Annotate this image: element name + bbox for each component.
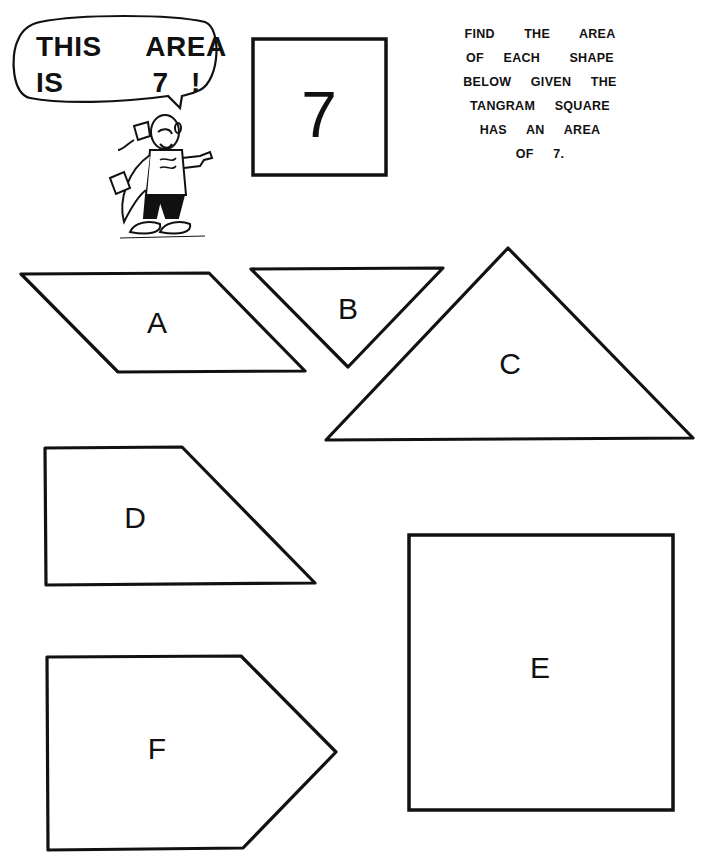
shape-d-label: D (124, 501, 146, 534)
shape-b-label: B (338, 292, 358, 325)
shape-a-label: A (147, 306, 167, 339)
shape-c-triangle (326, 248, 693, 440)
speech-bubble-line: THIS AREA (36, 29, 227, 65)
shape-c-label: C (499, 347, 521, 380)
shape-f-label: F (148, 732, 166, 765)
tangram-square-label: 7 (301, 79, 337, 151)
instruction-line: FIND THE AREA (440, 22, 640, 46)
instructions: FIND THE AREA OF EACH SHAPE BELOW GIVEN … (440, 22, 640, 166)
speech-bubble-text: THIS AREA IS 7 ! (36, 29, 227, 101)
instruction-line: BELOW GIVEN THE (440, 70, 640, 94)
instruction-line: TANGRAM SQUARE (440, 94, 640, 118)
instruction-line: OF EACH SHAPE (440, 46, 640, 70)
shape-e-label: E (530, 651, 550, 684)
instruction-line: OF 7. (440, 142, 640, 166)
shape-d-trapezoid (45, 447, 315, 585)
speech-bubble-line: IS 7 ! (36, 65, 227, 101)
shape-f-pentagon (47, 656, 336, 850)
pointing-cartoon-character-icon (110, 115, 212, 238)
instruction-line: HAS AN AREA (440, 118, 640, 142)
